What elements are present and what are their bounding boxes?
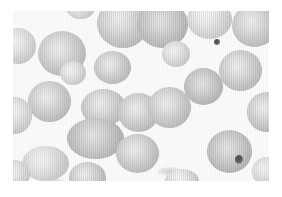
platelet-granule <box>235 155 243 164</box>
cell-body <box>184 68 223 105</box>
red-blood-cell <box>60 61 86 85</box>
cell-body <box>66 11 95 19</box>
cell-body <box>28 81 71 122</box>
cell-body <box>13 28 36 64</box>
cell-body <box>60 61 86 85</box>
cell-body <box>116 134 159 173</box>
cell-body <box>252 157 269 181</box>
red-blood-cell <box>94 51 131 84</box>
cell-body <box>69 162 106 181</box>
image-viewport <box>0 0 282 197</box>
platelet-granule <box>214 39 220 45</box>
cell-body <box>187 11 232 39</box>
cell-body <box>247 92 269 132</box>
cell-body <box>232 11 269 47</box>
red-blood-cell <box>232 11 269 47</box>
red-blood-cell <box>28 81 71 122</box>
red-blood-cell <box>66 11 95 19</box>
red-blood-cell <box>69 162 106 181</box>
microscope-field <box>13 11 269 181</box>
cell-body <box>162 41 190 67</box>
cell-body <box>94 51 131 84</box>
red-blood-cell <box>187 11 232 39</box>
red-blood-cell <box>219 50 262 91</box>
red-blood-cell <box>116 134 159 173</box>
red-blood-cell <box>162 41 190 67</box>
red-blood-cell <box>184 68 223 105</box>
red-blood-cell <box>207 130 252 173</box>
cell-body <box>207 130 252 173</box>
red-blood-cell <box>247 92 269 132</box>
red-blood-cell <box>13 28 36 64</box>
red-blood-cell <box>165 169 199 181</box>
cell-body <box>219 50 262 91</box>
red-blood-cell <box>252 157 269 181</box>
cell-body <box>165 169 199 181</box>
